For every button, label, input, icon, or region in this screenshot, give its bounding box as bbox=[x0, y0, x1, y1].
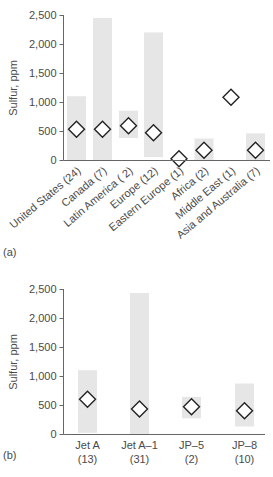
y-axis-title-a: Sulfur, ppm bbox=[7, 60, 19, 116]
y-tick-label: 500 bbox=[38, 399, 56, 411]
y-axis-title-b: Sulfur, ppm bbox=[7, 334, 19, 390]
y-tick-label: 1,000 bbox=[29, 370, 57, 382]
chart-panel-b: Sulfur, ppm 05001,0001,5002,0002,500 Jet… bbox=[3, 283, 265, 465]
average-marker-diamond bbox=[223, 89, 239, 105]
y-tick-label: 0 bbox=[50, 154, 56, 166]
panel-label-b: (b) bbox=[3, 449, 16, 461]
y-tick-label: 1,000 bbox=[29, 96, 57, 108]
y-axis-ticks-a: 05001,0001,5002,0002,500 bbox=[29, 9, 64, 166]
y-tick-label: 2,500 bbox=[29, 9, 57, 21]
bars-b bbox=[78, 293, 254, 434]
x-category-label: Jet A bbox=[75, 439, 100, 451]
x-category-label: Jet A–1 bbox=[121, 439, 158, 451]
y-tick-label: 2,000 bbox=[29, 38, 57, 50]
y-tick-label: 0 bbox=[50, 428, 56, 440]
range-bar bbox=[93, 18, 112, 160]
bars-a bbox=[67, 18, 265, 160]
x-axis-labels-b: Jet A(13)Jet A–1(31)JP–5(2)JP–8(10) bbox=[75, 439, 257, 465]
panel-label-a: (a) bbox=[3, 246, 16, 258]
x-category-label: (31) bbox=[130, 453, 150, 465]
x-category-label: (10) bbox=[235, 453, 255, 465]
y-tick-label: 2,500 bbox=[29, 283, 57, 295]
x-category-label: (2) bbox=[185, 453, 198, 465]
x-category-label: (13) bbox=[78, 453, 98, 465]
chart-panel-a: Sulfur, ppm 05001,0001,5002,0002,500 Uni… bbox=[3, 9, 270, 258]
figure: Sulfur, ppm 05001,0001,5002,0002,500 Uni… bbox=[0, 0, 273, 477]
x-axis-labels-a: United States (24)Canada (7)Latin Americ… bbox=[7, 164, 262, 240]
y-axis-ticks-b: 05001,0001,5002,0002,500 bbox=[29, 283, 64, 440]
y-tick-label: 2,000 bbox=[29, 312, 57, 324]
x-category-label: JP–5 bbox=[179, 439, 204, 451]
y-tick-label: 1,500 bbox=[29, 67, 57, 79]
average-marker-diamond bbox=[171, 151, 187, 167]
y-tick-label: 500 bbox=[38, 125, 56, 137]
markers-b bbox=[80, 391, 253, 419]
x-category-label: JP–8 bbox=[232, 439, 257, 451]
y-tick-label: 1,500 bbox=[29, 341, 57, 353]
